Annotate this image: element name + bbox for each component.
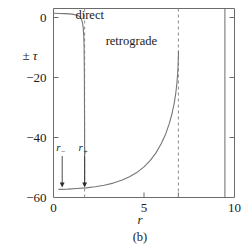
curve-direct: [54, 13, 85, 185]
marker-subscript-r-plus: +: [83, 147, 87, 156]
y-tick-label: −60: [26, 190, 46, 205]
y-axis-ticks: [54, 18, 59, 138]
marker-label-r-plus: r+: [79, 141, 88, 156]
chart-canvas: r−r+ 0510 0−20−40−60 directretrograde ± …: [0, 0, 251, 245]
marker-subscript-r-minus: −: [61, 147, 65, 156]
figure-caption: (b): [133, 230, 148, 244]
marker-arrows: r−r+: [56, 141, 87, 188]
arrow-head-r-plus: [82, 183, 87, 188]
y-tick-label: −40: [26, 130, 46, 145]
y-tick-label: 0: [40, 10, 47, 25]
right-axis-ticks: [230, 18, 235, 138]
curve-annotations: directretrograde: [75, 8, 157, 48]
annotation-retrograde: retrograde: [106, 34, 158, 48]
figure-container: r−r+ 0510 0−20−40−60 directretrograde ± …: [0, 0, 251, 245]
x-tick-labels: 0510: [50, 200, 241, 215]
y-axis-label: ± τ: [22, 48, 38, 63]
arrow-head-r-minus: [60, 183, 65, 188]
curve-retrograde: [59, 51, 179, 189]
x-tick-label: 0: [50, 200, 57, 215]
x-axis-ticks: [144, 193, 178, 198]
x-tick-label: 10: [228, 200, 241, 215]
y-tick-label: −20: [26, 70, 46, 85]
y-tick-labels: 0−20−40−60: [26, 10, 46, 205]
marker-label-r-minus: r−: [56, 141, 65, 156]
annotation-direct: direct: [75, 8, 104, 22]
